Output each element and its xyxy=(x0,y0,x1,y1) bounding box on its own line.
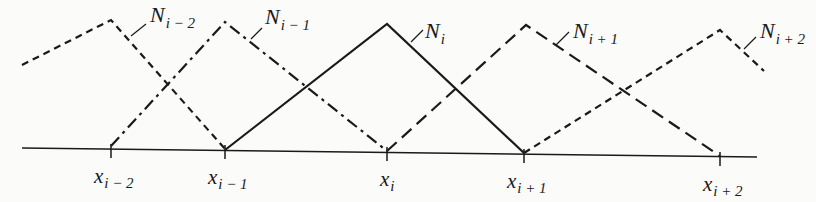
basis-function-n-i xyxy=(225,24,524,153)
label-n-im2: Ni − 2 xyxy=(149,2,195,31)
diagram-canvas: Ni − 2Ni − 1NiNi + 1Ni + 2 xi − 2xi − 1x… xyxy=(0,0,816,202)
leader-line xyxy=(411,30,423,42)
basis-function-n-im2 xyxy=(22,20,225,149)
label-n-ip2: Ni + 2 xyxy=(759,18,805,47)
leader-line xyxy=(744,37,756,49)
node-label-x-ip2: xi + 2 xyxy=(702,172,743,199)
label-n-ip1: Ni + 1 xyxy=(572,18,618,47)
node-label-x-im2: xi − 2 xyxy=(93,164,134,191)
leader-line xyxy=(131,24,146,36)
node-label-x-ip1: xi + 1 xyxy=(506,169,547,196)
label-n-im1: Ni − 1 xyxy=(264,4,310,33)
leader-line xyxy=(251,28,262,39)
label-n-i: Ni xyxy=(424,18,445,47)
basis-function-n-ip1 xyxy=(387,25,720,156)
node-labels: xi − 2xi − 1xixi + 1xi + 2 xyxy=(93,164,743,199)
basis-function-labels: Ni − 2Ni − 1NiNi + 1Ni + 2 xyxy=(149,2,805,47)
leader-line xyxy=(556,32,569,45)
node-label-x-i: xi xyxy=(379,167,395,194)
hat-basis-diagram: Ni − 2Ni − 1NiNi + 1Ni + 2 xi − 2xi − 1x… xyxy=(0,0,816,202)
basis-functions xyxy=(22,20,764,156)
node-label-x-im1: xi − 1 xyxy=(207,165,248,192)
